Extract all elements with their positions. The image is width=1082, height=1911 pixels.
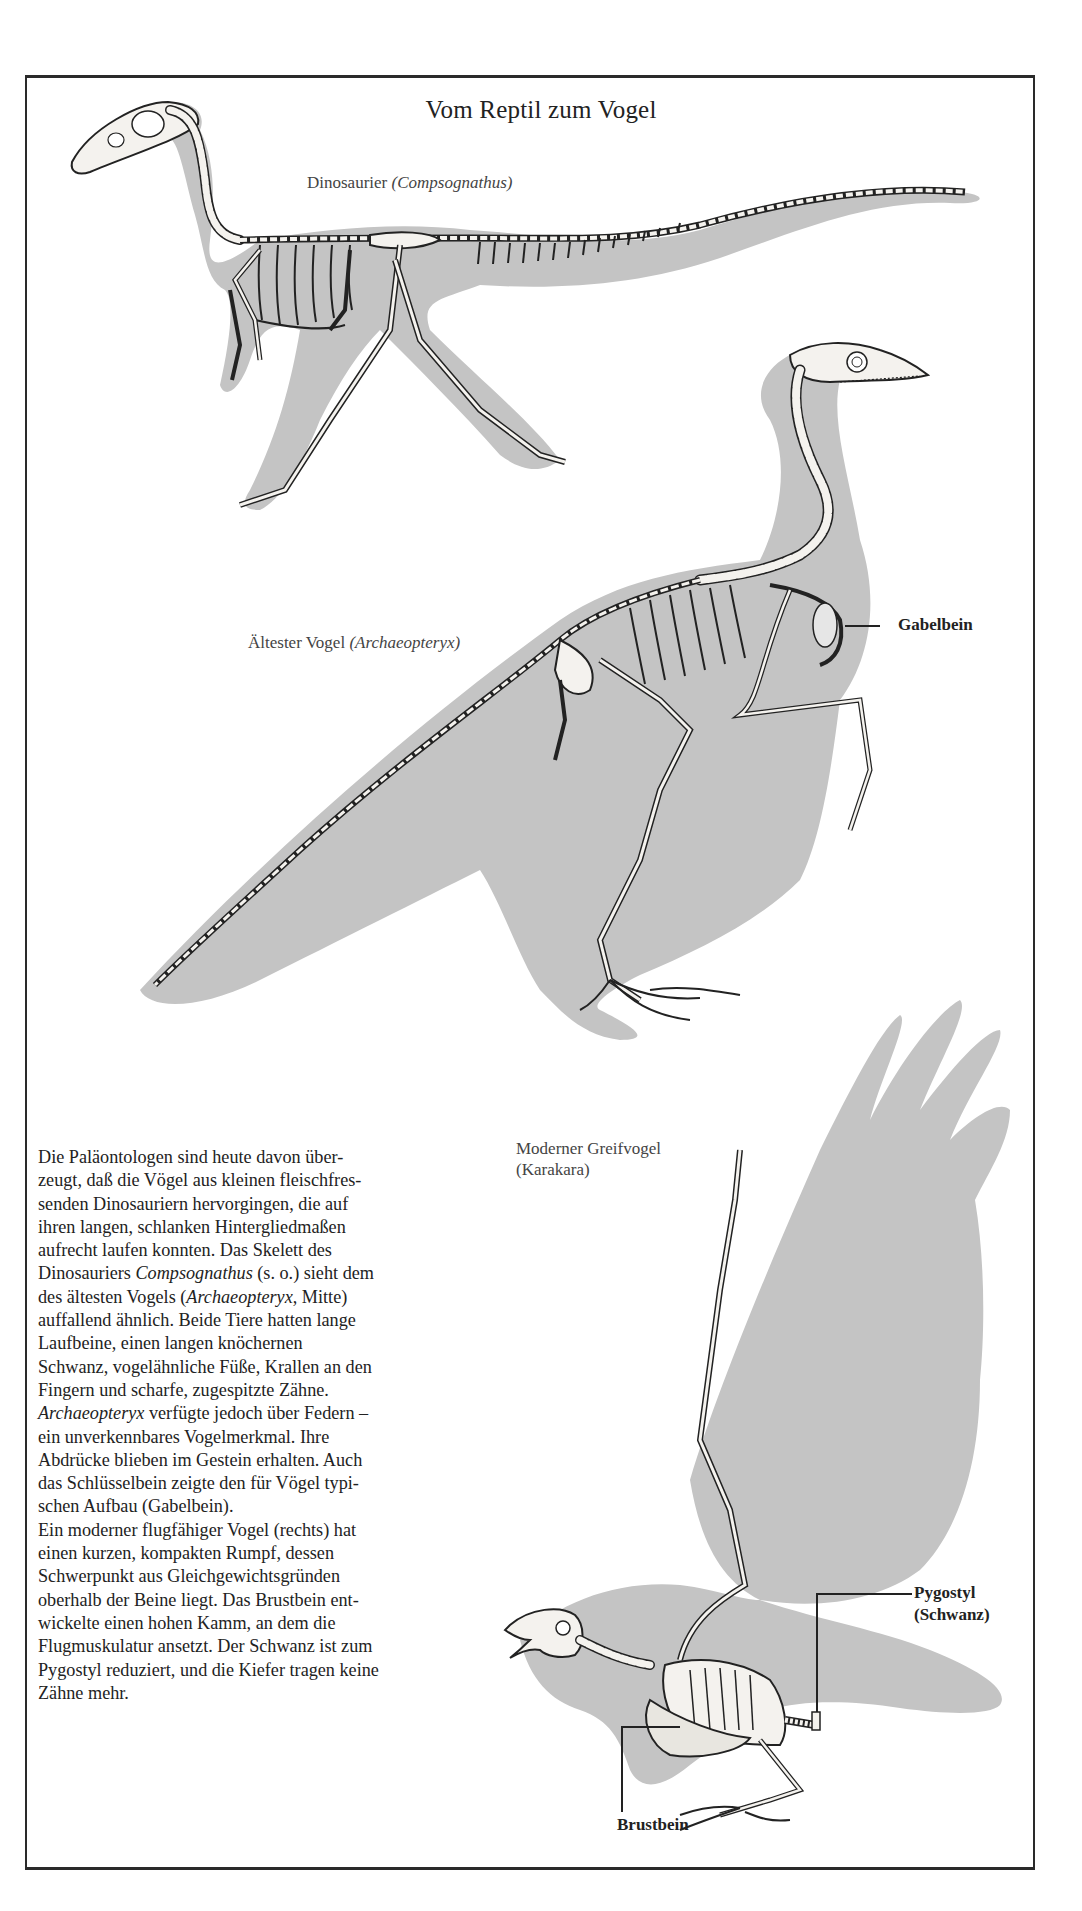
- body-line: Archaeopteryx verfügte jedoch über Feder…: [38, 1402, 488, 1425]
- body-line: Schwerpunkt aus Gleichgewichtsgründen: [38, 1565, 488, 1588]
- body-line: das Schlüsselbein zeigte den für Vögel t…: [38, 1472, 488, 1495]
- callout-gabelbein: Gabelbein: [898, 615, 973, 635]
- body-line: ihren langen, schlanken Hintergliedmaßen: [38, 1216, 488, 1239]
- body-line: Fingern und scharfe, zugespitzte Zähne.: [38, 1379, 488, 1402]
- body-line: Zähne mehr.: [38, 1682, 488, 1705]
- body-line: wickelte einen hohen Kamm, an dem die: [38, 1612, 488, 1635]
- body-line: Laufbeine, einen langen knöchernen: [38, 1332, 488, 1355]
- body-line: schen Aufbau (Gabelbein).: [38, 1495, 488, 1518]
- dinosaur-label-name: Dinosaurier: [307, 173, 392, 192]
- modern-bird-figure: [505, 1000, 1010, 1830]
- body-line: Die Paläontologen sind heute davon über-: [38, 1146, 488, 1169]
- body-line: Pygostyl reduziert, und die Kiefer trage…: [38, 1659, 488, 1682]
- archaeopteryx-label-species: (Archaeopteryx): [349, 633, 460, 652]
- karakara-wing-silhouette: [690, 1000, 1010, 1604]
- callout-pygostyl: Pygostyl (Schwanz): [914, 1582, 990, 1626]
- body-line: auffallend ähnlich. Beide Tiere hatten l…: [38, 1309, 488, 1332]
- body-line: Ein moderner flugfähiger Vogel (rechts) …: [38, 1519, 488, 1542]
- modern-bird-label: Moderner Greifvogel (Karakara): [516, 1138, 661, 1180]
- body-line: einen kurzen, kompakten Rumpf, dessen: [38, 1542, 488, 1565]
- body-line: Flugmuskulatur ansetzt. Der Schwanz ist …: [38, 1635, 488, 1658]
- body-line: Schwanz, vogelähnliche Füße, Krallen an …: [38, 1356, 488, 1379]
- archaeopteryx-label: Ältester Vogel (Archaeopteryx): [248, 633, 460, 653]
- dinosaur-label-species: (Compsognathus): [392, 173, 513, 192]
- callout-brustbein: Brustbein: [617, 1815, 689, 1835]
- body-line: aufrecht laufen konnten. Das Skelett des: [38, 1239, 488, 1262]
- callout-pygostyl-line2: (Schwanz): [914, 1604, 990, 1626]
- body-line: Abdrücke blieben im Gestein erhalten. Au…: [38, 1449, 488, 1472]
- body-line: des ältesten Vogels (Archaeopteryx, Mitt…: [38, 1286, 488, 1309]
- callout-pygostyl-line1: Pygostyl: [914, 1582, 990, 1604]
- dinosaur-label: Dinosaurier (Compsognathus): [307, 173, 512, 193]
- body-line: zeugt, daß die Vögel aus kleinen fleisch…: [38, 1169, 488, 1192]
- body-line: Dinosauriers Compsognathus (s. o.) sieht…: [38, 1262, 488, 1285]
- modern-bird-label-line2: (Karakara): [516, 1159, 661, 1180]
- body-line: senden Dinosauriern hervorgingen, die au…: [38, 1193, 488, 1216]
- body-line: oberhalb der Beine liegt. Das Brustbein …: [38, 1589, 488, 1612]
- body-paragraph: Die Paläontologen sind heute davon über-…: [38, 1146, 488, 1705]
- archaeopteryx-label-name: Ältester Vogel: [248, 633, 349, 652]
- modern-bird-label-line1: Moderner Greifvogel: [516, 1138, 661, 1159]
- body-line: ein unverkennbares Vogelmerkmal. Ihre: [38, 1426, 488, 1449]
- dinosaur-figure: [72, 102, 980, 510]
